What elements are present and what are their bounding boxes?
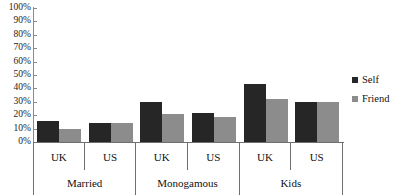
- bar-pair: [291, 8, 343, 142]
- bar-pair: [240, 8, 292, 142]
- legend-item: Self: [352, 70, 406, 89]
- bar-self: [192, 113, 214, 142]
- y-axis-tick-label: 40%: [0, 84, 31, 94]
- bar-pair: [136, 8, 188, 142]
- bar-friend: [214, 117, 236, 142]
- bar-chart: 100%90%80%70%60%50%40%30%20%10%0% UKUSUK…: [0, 0, 406, 196]
- legend-swatch-icon: [352, 77, 358, 83]
- legend-item: Friend: [352, 89, 406, 108]
- y-axis-tick-label: 70%: [0, 43, 31, 53]
- bar-pair: [188, 8, 240, 142]
- bar-self: [89, 123, 111, 142]
- y-axis-tick-label: 90%: [0, 17, 31, 27]
- y-axis-tick-label: 60%: [0, 57, 31, 67]
- bar-self: [295, 102, 317, 142]
- category-label-cell: UK: [136, 143, 188, 170]
- y-axis-tick-label: 50%: [0, 70, 31, 80]
- category-label-cell: UK: [240, 143, 292, 170]
- group-label-cell: Kids: [240, 170, 343, 195]
- category-axis-row: UKUSUKUSUKUS: [33, 143, 344, 170]
- bar-self: [37, 121, 59, 142]
- legend-label: Friend: [362, 93, 389, 104]
- y-axis-tick-label: 30%: [0, 97, 31, 107]
- bar-friend: [111, 123, 133, 142]
- category-label-cell: US: [291, 143, 343, 170]
- category-label-cell: US: [188, 143, 240, 170]
- bar-self: [244, 84, 266, 142]
- chart-legend: SelfFriend: [352, 70, 406, 108]
- y-axis-tick-label: 20%: [0, 110, 31, 120]
- bar-friend: [162, 114, 184, 142]
- y-axis-tick-label: 10%: [0, 124, 31, 134]
- y-axis-tick-label: 80%: [0, 30, 31, 40]
- bar-friend: [59, 129, 81, 142]
- legend-swatch-icon: [352, 96, 358, 102]
- group-label-cell: Monogamous: [136, 170, 239, 195]
- y-axis-tick-label: 0%: [0, 137, 31, 147]
- bar-friend: [266, 99, 288, 142]
- bar-friend: [317, 102, 339, 142]
- group-label-cell: Married: [33, 170, 136, 195]
- y-axis-tick-label: 100%: [0, 3, 31, 13]
- legend-label: Self: [362, 74, 379, 85]
- bar-self: [140, 102, 162, 142]
- category-label-cell: UK: [33, 143, 85, 170]
- plot-area: [33, 8, 343, 142]
- category-label-cell: US: [85, 143, 137, 170]
- bar-pair: [85, 8, 137, 142]
- bar-pair: [33, 8, 85, 142]
- y-axis-labels: 100%90%80%70%60%50%40%30%20%10%0%: [0, 0, 31, 196]
- group-axis-row: MarriedMonogamousKids: [33, 170, 344, 195]
